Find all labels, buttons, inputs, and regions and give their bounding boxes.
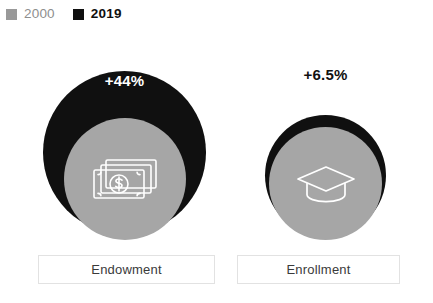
delta-label-endowment: +44% bbox=[43, 72, 206, 89]
legend-swatch-2000 bbox=[6, 9, 17, 20]
delta-label-enrollment: +6.5% bbox=[265, 66, 386, 83]
legend-label-2019: 2019 bbox=[91, 7, 122, 21]
category-box-enrollment[interactable]: Enrollment bbox=[237, 255, 400, 284]
bubble-groups: +44% +6.5% bbox=[0, 30, 433, 240]
bubble-group-enrollment: +6.5% bbox=[236, 30, 416, 240]
chart-legend: 2000 2019 bbox=[6, 4, 122, 24]
bubble-comparison-infographic: 2000 2019 bbox=[0, 0, 433, 303]
money-stack-icon bbox=[64, 118, 186, 240]
graduation-cap-icon bbox=[269, 127, 382, 240]
legend-item-2000: 2000 bbox=[6, 7, 55, 21]
legend-swatch-2019 bbox=[73, 9, 84, 20]
bubble-group-endowment: +44% bbox=[18, 30, 234, 240]
category-label-enrollment: Enrollment bbox=[286, 263, 350, 276]
category-label-endowment: Endowment bbox=[91, 263, 161, 276]
legend-item-2019: 2019 bbox=[73, 7, 122, 21]
legend-label-2000: 2000 bbox=[24, 7, 55, 21]
category-box-endowment[interactable]: Endowment bbox=[38, 255, 215, 284]
